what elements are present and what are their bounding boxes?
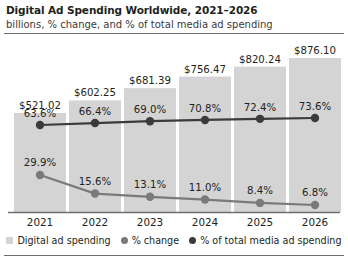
pct-change-label-2024: 11.0%: [189, 182, 222, 193]
chart-container: Digital Ad Spending Worldwide, 2021–2026…: [0, 0, 348, 266]
legend-label: % change: [132, 235, 179, 246]
pct-change-point-2023: [146, 193, 154, 201]
pct-of-total-label-2023: 69.0%: [134, 104, 167, 115]
pct-change-label-2025: 8.4%: [247, 185, 273, 196]
pct-change-point-2026: [311, 201, 319, 209]
x-axis-tick-2025: 2025: [247, 216, 273, 228]
pct-change-point-2022: [91, 189, 99, 197]
pct-change-point-2024: [201, 195, 209, 203]
x-axis-tick-2026: 2026: [302, 216, 328, 228]
footer-divider: [4, 255, 344, 256]
pct-of-total-label-2022: 66.4%: [79, 106, 112, 117]
pct-change-label-2026: 6.8%: [302, 187, 328, 198]
legend-label: Digital ad spending: [17, 235, 110, 246]
pct-of-total-label-2021: 63.6%: [24, 108, 57, 119]
legend-item-pct-of-total: % of total media ad spending: [189, 235, 341, 246]
pct-change-label-2023: 13.1%: [134, 179, 167, 190]
bar-value-label-2023: $681.39: [129, 75, 171, 86]
pct-change-label-2021: 29.9%: [24, 157, 57, 168]
legend-swatch-icon: [6, 237, 13, 244]
legend-item-pct-change: % change: [121, 235, 179, 246]
x-axis-tick-2022: 2022: [82, 216, 108, 228]
pct-change-point-2025: [256, 199, 264, 207]
chart-legend: Digital ad spending % change % of total …: [0, 235, 348, 246]
pct-of-total-label-2024: 70.8%: [189, 103, 222, 114]
pct-of-total-point-2023: [146, 117, 154, 125]
pct-change-point-2021: [36, 171, 44, 179]
pct-of-total-point-2025: [256, 115, 264, 123]
pct-of-total-point-2022: [91, 119, 99, 127]
x-axis-tick-2023: 2023: [137, 216, 163, 228]
bar-value-label-2026: $876.10: [294, 45, 336, 56]
pct-of-total-label-2026: 73.6%: [299, 101, 332, 112]
pct-of-total-point-2024: [201, 116, 209, 124]
pct-of-total-label-2025: 72.4%: [244, 102, 277, 113]
legend-dot-icon: [189, 237, 196, 244]
x-axis-tick-2021: 2021: [27, 216, 53, 228]
pct-of-total-point-2026: [311, 114, 319, 122]
x-axis-tick-2024: 2024: [192, 216, 219, 228]
bar-value-label-2024: $756.47: [184, 64, 226, 75]
bar-value-label-2022: $602.25: [74, 87, 116, 98]
pct-of-total-point-2021: [36, 121, 44, 129]
legend-item-digital-ad-spending: Digital ad spending: [6, 235, 110, 246]
legend-label: % of total media ad spending: [200, 235, 341, 246]
legend-dot-icon: [121, 237, 128, 244]
bar-value-label-2025: $820.24: [239, 54, 281, 65]
chart-plot-area: $521.02$602.25$681.39$756.47$820.24$876.…: [0, 0, 348, 266]
pct-change-label-2022: 15.6%: [79, 176, 112, 187]
